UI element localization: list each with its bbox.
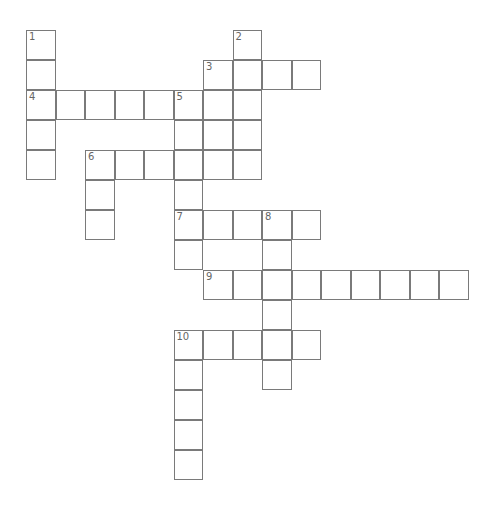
crossword-cell[interactable]: [203, 330, 233, 360]
crossword-cell[interactable]: [292, 210, 322, 240]
crossword-cell[interactable]: [26, 150, 56, 180]
crossword-cell[interactable]: [351, 270, 381, 300]
crossword-cell[interactable]: [203, 90, 233, 120]
crossword-cell[interactable]: 4: [26, 90, 56, 120]
crossword-cell[interactable]: [292, 270, 322, 300]
clue-number: 7: [177, 212, 183, 222]
crossword-cell[interactable]: [233, 210, 263, 240]
crossword-cell[interactable]: 8: [262, 210, 292, 240]
crossword-cell[interactable]: [262, 60, 292, 90]
crossword-cell[interactable]: [174, 240, 204, 270]
crossword-cell[interactable]: [85, 90, 115, 120]
crossword-cell[interactable]: [233, 330, 263, 360]
crossword-grid: 14235768910: [0, 0, 494, 509]
crossword-cell[interactable]: 5: [174, 90, 204, 120]
crossword-cell[interactable]: 7: [174, 210, 204, 240]
crossword-cell[interactable]: [85, 180, 115, 210]
crossword-cell[interactable]: [321, 270, 351, 300]
crossword-cell[interactable]: [174, 120, 204, 150]
crossword-cell[interactable]: [85, 210, 115, 240]
crossword-cell[interactable]: [203, 150, 233, 180]
crossword-cell[interactable]: [410, 270, 440, 300]
crossword-cell[interactable]: 10: [174, 330, 204, 360]
clue-number: 10: [177, 332, 190, 342]
crossword-cell[interactable]: 9: [203, 270, 233, 300]
clue-number: 1: [29, 32, 35, 42]
crossword-cell[interactable]: [380, 270, 410, 300]
crossword-cell[interactable]: 3: [203, 60, 233, 90]
clue-number: 5: [177, 92, 183, 102]
crossword-cell[interactable]: 6: [85, 150, 115, 180]
crossword-cell[interactable]: [203, 120, 233, 150]
crossword-cell[interactable]: [262, 330, 292, 360]
crossword-cell[interactable]: 2: [233, 30, 263, 60]
clue-number: 2: [236, 32, 242, 42]
clue-number: 9: [206, 272, 212, 282]
crossword-cell[interactable]: [174, 180, 204, 210]
crossword-cell[interactable]: [174, 450, 204, 480]
crossword-cell[interactable]: [144, 90, 174, 120]
crossword-cell[interactable]: [262, 240, 292, 270]
crossword-cell[interactable]: [292, 330, 322, 360]
crossword-cell[interactable]: [262, 270, 292, 300]
crossword-cell[interactable]: [144, 150, 174, 180]
crossword-cell[interactable]: [292, 60, 322, 90]
crossword-cell[interactable]: [115, 150, 145, 180]
crossword-cell[interactable]: [174, 150, 204, 180]
crossword-cell[interactable]: [439, 270, 469, 300]
crossword-cell[interactable]: [233, 270, 263, 300]
crossword-cell[interactable]: [233, 90, 263, 120]
crossword-cell[interactable]: [262, 300, 292, 330]
crossword-cell[interactable]: [115, 90, 145, 120]
clue-number: 6: [88, 152, 94, 162]
crossword-cell[interactable]: [233, 120, 263, 150]
crossword-cell[interactable]: [233, 60, 263, 90]
crossword-cell[interactable]: [26, 120, 56, 150]
crossword-cell[interactable]: [56, 90, 86, 120]
clue-number: 8: [265, 212, 271, 222]
crossword-cell[interactable]: [174, 420, 204, 450]
clue-number: 3: [206, 62, 212, 72]
crossword-cell[interactable]: 1: [26, 30, 56, 60]
crossword-cell[interactable]: [262, 360, 292, 390]
crossword-cell[interactable]: [174, 390, 204, 420]
crossword-cell[interactable]: [203, 210, 233, 240]
crossword-cell[interactable]: [233, 150, 263, 180]
crossword-cell[interactable]: [174, 360, 204, 390]
crossword-cell[interactable]: [26, 60, 56, 90]
clue-number: 4: [29, 92, 35, 102]
